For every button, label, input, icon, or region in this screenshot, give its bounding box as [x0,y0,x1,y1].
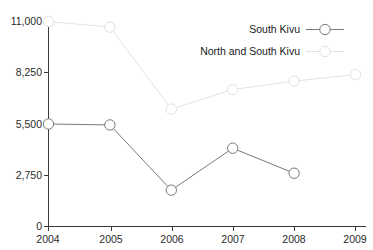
series-line [49,124,295,190]
x-tick-label-2004: 2004 [36,233,60,245]
x-tick-label-2008: 2008 [282,233,306,245]
series-north-and-south-kivu [43,16,360,114]
y-tick-label-0: 0 [36,220,42,232]
data-point [289,76,299,86]
data-point [228,143,238,153]
y-tick-label-2750: 2,750 [16,169,42,181]
y-tick-label-8250: 8,250 [16,66,42,78]
x-tick-marks [49,227,356,232]
x-tick-label-2006: 2006 [160,233,184,245]
chart-canvas: 11,000 8,250 5,500 2,750 0 2004 2005 200… [0,0,373,250]
data-series-layer [43,16,360,195]
data-point [289,168,299,178]
x-tick-label-2005: 2005 [99,233,123,245]
legend-label-north-and-south-kivu: North and South Kivu [200,45,300,57]
data-point [166,104,176,114]
series-south-kivu [43,119,299,196]
data-point [166,185,176,195]
legend-marker-south-kivu [306,24,344,34]
data-point [350,69,360,79]
data-point [43,16,53,26]
y-tick-label-11000: 11,000 [11,15,42,27]
series-line [49,22,356,110]
y-tick-label-5500: 5,500 [16,118,42,130]
data-point [105,22,115,32]
chart-legend: South Kivu North and South Kivu [200,23,344,57]
data-point [43,119,53,129]
line-chart: 11,000 8,250 5,500 2,750 0 2004 2005 200… [0,0,373,250]
x-tick-label-2007: 2007 [221,233,245,245]
legend-label-south-kivu: South Kivu [249,23,300,35]
x-tick-label-2009: 2009 [343,233,367,245]
data-point [105,120,115,130]
legend-marker-north-and-south-kivu [306,46,344,56]
data-point [228,84,238,94]
